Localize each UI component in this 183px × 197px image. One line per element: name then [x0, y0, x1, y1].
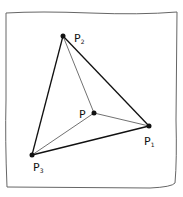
vertex-p1 [147, 124, 152, 129]
vertex-p3 [30, 153, 35, 158]
vertex-p2 [61, 34, 66, 39]
vertex-p [92, 111, 97, 116]
diagram-canvas: P2 P P1 P3 [0, 0, 183, 197]
label-p: P [79, 108, 86, 121]
paper-frame [6, 12, 177, 188]
